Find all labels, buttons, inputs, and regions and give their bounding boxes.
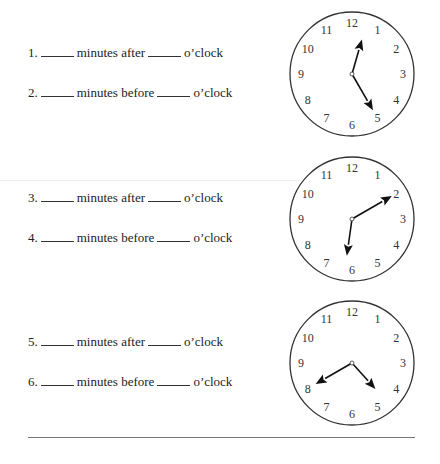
clock-numeral: 1 xyxy=(375,312,381,326)
hour-blank[interactable] xyxy=(148,45,181,57)
clock-numeral: 11 xyxy=(321,312,333,326)
clock-numeral: 1 xyxy=(375,23,381,37)
clock-numeral: 9 xyxy=(298,67,304,81)
question-3: 3.minutes aftero’clock xyxy=(28,190,223,206)
clock-numeral: 5 xyxy=(375,400,381,414)
question-text: minutes after xyxy=(77,334,145,349)
bottom-rule xyxy=(28,437,415,438)
clock-numeral: 6 xyxy=(349,263,355,277)
clock-center-pin xyxy=(350,72,354,76)
clock-numeral: 10 xyxy=(302,187,314,201)
clock-numeral: 2 xyxy=(393,187,399,201)
question-6: 6.minutes beforeo’clock xyxy=(28,374,232,390)
clock-numeral: 11 xyxy=(321,168,333,182)
question-text: minutes after xyxy=(77,45,145,60)
question-text: minutes before xyxy=(77,374,155,389)
question-number: 1. xyxy=(28,45,38,60)
hour-blank[interactable] xyxy=(157,230,190,242)
hour-blank[interactable] xyxy=(157,85,190,97)
clock-numeral: 8 xyxy=(305,93,311,107)
hour-blank[interactable] xyxy=(148,190,181,202)
question-number: 4. xyxy=(28,230,38,245)
clock-numeral: 8 xyxy=(305,238,311,252)
question-suffix: o’clock xyxy=(193,85,232,100)
clock-3: 121234567891011 xyxy=(286,297,418,429)
hour-blank[interactable] xyxy=(157,374,190,386)
question-suffix: o’clock xyxy=(184,45,223,60)
clock-numeral: 9 xyxy=(298,356,304,370)
question-number: 5. xyxy=(28,334,38,349)
question-suffix: o’clock xyxy=(184,334,223,349)
question-1: 1.minutes aftero’clock xyxy=(28,45,223,61)
clock-2: 121234567891011 xyxy=(286,153,418,285)
hour-blank[interactable] xyxy=(148,334,181,346)
clock-numeral: 4 xyxy=(393,382,399,396)
clock-numeral: 10 xyxy=(302,42,314,56)
clock-numeral: 3 xyxy=(400,67,406,81)
minutes-blank[interactable] xyxy=(41,374,74,386)
clock-numeral: 4 xyxy=(393,93,399,107)
minutes-blank[interactable] xyxy=(41,85,74,97)
clock-numeral: 12 xyxy=(346,305,358,319)
question-text: minutes before xyxy=(77,85,155,100)
question-5: 5.minutes aftero’clock xyxy=(28,334,223,350)
question-number: 2. xyxy=(28,85,38,100)
clock-numeral: 1 xyxy=(375,168,381,182)
question-2: 2.minutes beforeo’clock xyxy=(28,85,232,101)
clock-center-pin xyxy=(350,217,354,221)
question-text: minutes before xyxy=(77,230,155,245)
question-suffix: o’clock xyxy=(184,190,223,205)
clock-numeral: 12 xyxy=(346,16,358,30)
minutes-blank[interactable] xyxy=(41,45,74,57)
question-4: 4.minutes beforeo’clock xyxy=(28,230,232,246)
question-suffix: o’clock xyxy=(193,374,232,389)
question-number: 3. xyxy=(28,190,38,205)
clock-numeral: 9 xyxy=(298,212,304,226)
clock-numeral: 5 xyxy=(375,256,381,270)
minutes-blank[interactable] xyxy=(41,190,74,202)
faint-divider xyxy=(0,180,300,181)
clock-numeral: 7 xyxy=(324,256,330,270)
clock-numeral: 7 xyxy=(324,400,330,414)
clock-numeral: 2 xyxy=(393,42,399,56)
clock-numeral: 12 xyxy=(346,161,358,175)
clock-numeral: 6 xyxy=(349,118,355,132)
clock-numeral: 3 xyxy=(400,212,406,226)
clock-numeral: 7 xyxy=(324,111,330,125)
question-number: 6. xyxy=(28,374,38,389)
clock-numeral: 8 xyxy=(305,382,311,396)
minutes-blank[interactable] xyxy=(41,334,74,346)
clock-numeral: 4 xyxy=(393,238,399,252)
clock-center-pin xyxy=(350,361,354,365)
minutes-blank[interactable] xyxy=(41,230,74,242)
clock-numeral: 11 xyxy=(321,23,333,37)
clock-numeral: 10 xyxy=(302,331,314,345)
clock-numeral: 3 xyxy=(400,356,406,370)
question-text: minutes after xyxy=(77,190,145,205)
clock-1: 121234567891011 xyxy=(286,8,418,140)
clock-numeral: 5 xyxy=(375,111,381,125)
clock-numeral: 2 xyxy=(393,331,399,345)
clock-numeral: 6 xyxy=(349,407,355,421)
question-suffix: o’clock xyxy=(193,230,232,245)
